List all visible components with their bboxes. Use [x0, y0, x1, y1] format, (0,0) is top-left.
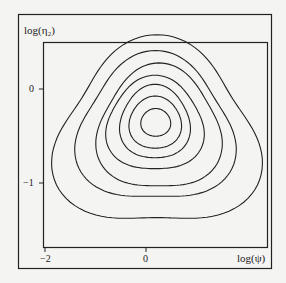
x-tick-label-0: 0: [143, 253, 148, 264]
contour-line: [120, 84, 191, 157]
y-axis-label: log(η₂): [24, 24, 55, 36]
contour-line: [129, 96, 182, 148]
x-axis-label: log(ψ): [237, 252, 265, 264]
contour-lines: [52, 35, 263, 219]
contour-line: [141, 109, 171, 137]
contour-figure: [0, 0, 286, 283]
plot-area: [44, 43, 268, 248]
x-tick-label-minus2: −2: [40, 253, 51, 264]
y-tick-label-0: 0: [29, 83, 34, 94]
contour-line: [75, 51, 237, 197]
y-tick-label-minus1: −1: [23, 177, 34, 188]
outer-frame: [19, 15, 272, 269]
